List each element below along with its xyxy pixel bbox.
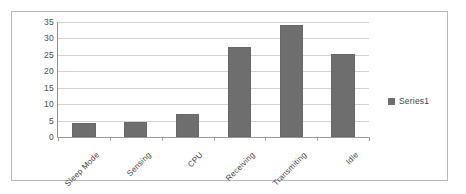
bar-sensing[interactable] [124,122,147,137]
y-axis-tick-labels: 05101520253035 [12,22,54,137]
gridline-5 [58,121,369,122]
bar-cpu[interactable] [176,114,199,137]
y-tick-label-25: 25 [14,50,54,60]
x-tick-mark-3 [214,137,215,141]
legend-swatch-icon [388,98,395,105]
gridline-20 [58,71,369,72]
x-axis-label-sleep-mode: Sleep Mode [24,150,101,194]
x-tick-mark-5 [317,137,318,141]
gridline-15 [58,88,369,89]
x-tick-mark-1 [110,137,111,141]
x-tick-mark-0 [58,137,59,141]
x-axis-category-labels: Sleep ModeSensingCPUReceivingTransmiting… [58,149,369,189]
bar-transmiting[interactable] [280,25,303,137]
plot-area [58,22,369,137]
chart-frame: 05101520253035 Sleep ModeSensingCPURecei… [11,11,448,181]
x-tick-mark-6 [369,137,370,141]
y-tick-label-0: 0 [14,132,54,142]
chart-legend[interactable]: Series1 [388,96,429,106]
y-tick-label-10: 10 [14,99,54,109]
gridline-25 [58,55,369,56]
bar-receiving[interactable] [228,47,251,137]
y-tick-label-5: 5 [14,116,54,126]
y-tick-label-35: 35 [14,17,54,27]
bar-idle[interactable] [331,54,354,137]
y-tick-label-20: 20 [14,66,54,76]
y-tick-label-15: 15 [14,83,54,93]
gridline-35 [58,22,369,23]
y-tick-label-30: 30 [14,33,54,43]
bar-sleep-mode[interactable] [72,123,95,137]
x-tick-mark-4 [265,137,266,141]
gridline-30 [58,38,369,39]
gridline-10 [58,104,369,105]
legend-item-label: Series1 [399,96,429,106]
x-tick-mark-2 [162,137,163,141]
